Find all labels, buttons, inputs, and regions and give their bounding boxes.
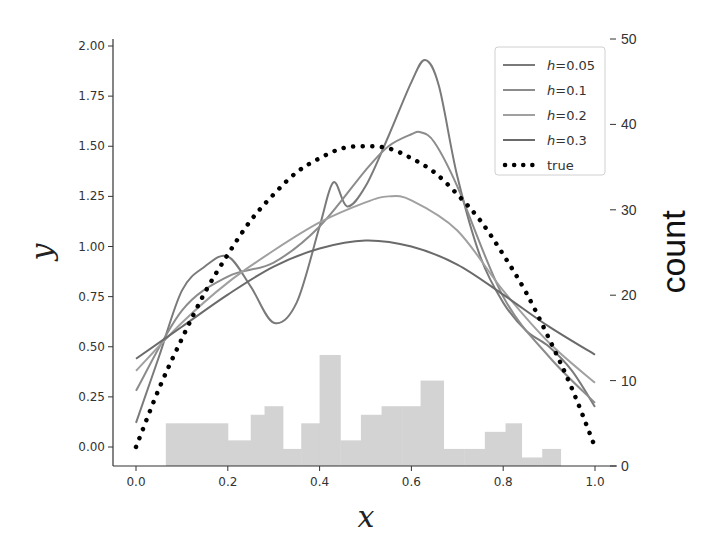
count-tick-label: 10 [621, 373, 637, 389]
x-tick-label: 0.6 [402, 475, 421, 489]
y-tick-label: 1.00 [78, 240, 105, 254]
legend-label: h=0.3 [547, 133, 587, 148]
histogram-bar [251, 415, 265, 466]
y-tick-label: 2.00 [78, 39, 105, 53]
count-tick-label: 20 [621, 287, 637, 303]
histogram-bar [402, 406, 421, 466]
x-tick-label: 0.2 [218, 475, 237, 489]
histogram-bar [265, 406, 284, 466]
histogram-bar [542, 449, 561, 466]
x-tick-label: 0.8 [494, 475, 513, 489]
x-axis-label: x [358, 499, 375, 534]
histogram-bar [166, 423, 183, 466]
histogram-bar [421, 381, 444, 466]
x-tick-label: 0.4 [310, 475, 329, 489]
histogram-bar [522, 457, 543, 466]
histogram-bar [464, 449, 485, 466]
y-tick-label: 1.75 [78, 89, 105, 103]
histogram-bar [283, 449, 302, 466]
legend-label: h=0.2 [547, 108, 587, 123]
histogram-bar [205, 423, 228, 466]
count-tick-label: 0 [621, 458, 629, 474]
y-tick-label: 1.50 [78, 139, 105, 153]
histogram-bar [320, 355, 341, 466]
histogram-bar [382, 406, 403, 466]
histogram-bar [340, 440, 361, 466]
kde-curve-h-0-3 [136, 240, 595, 358]
x-tick-label: 0.0 [126, 475, 145, 489]
true-curve [136, 146, 595, 447]
legend-label: true [547, 158, 574, 173]
count-tick-label: 40 [621, 116, 637, 132]
histogram-bar [228, 440, 251, 466]
count-tick-label: 50 [621, 31, 637, 47]
histogram-bar [182, 423, 205, 466]
y-axis-label: y [24, 242, 59, 262]
count-axis-label: count [654, 210, 692, 294]
y-tick-label: 0.25 [78, 390, 105, 404]
histogram-bar [444, 449, 465, 466]
count-tick-label: 30 [621, 202, 637, 218]
y-tick-label: 0.75 [78, 290, 105, 304]
histogram-bars [166, 355, 561, 466]
histogram-bar [505, 423, 522, 466]
histogram-bar [301, 423, 320, 466]
y-tick-label: 0.00 [78, 440, 105, 454]
y-tick-label: 1.25 [78, 189, 105, 203]
histogram-bar [485, 432, 506, 466]
histogram-bar [361, 415, 382, 466]
x-tick-label: 1.0 [585, 475, 604, 489]
y-tick-label: 0.50 [78, 340, 105, 354]
legend-label: h=0.1 [547, 83, 587, 98]
kde-chart: 0.00.20.40.60.81.00.000.250.500.751.001.… [0, 0, 712, 557]
legend-label: h=0.05 [547, 58, 595, 73]
legend: h=0.05h=0.1h=0.2h=0.3true [495, 47, 605, 175]
